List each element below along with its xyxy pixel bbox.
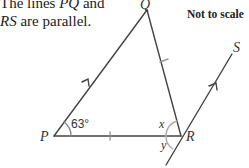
angle-arc-y [166,136,173,149]
point-label-r: R [185,129,195,144]
parallel-arrow-icon [82,79,89,86]
angle-label-y: y [160,138,167,152]
point-label-p: P [39,129,49,144]
point-label-q: Q [140,0,150,12]
angle-label-p: 63° [71,117,89,131]
point-label-s: S [233,40,240,55]
geometry-diagram: P Q R S 63° x y [0,0,249,168]
line-rs [166,54,232,165]
line-pq [54,10,147,136]
angle-arc-x [166,121,177,136]
angle-arc-p [64,122,71,136]
angle-label-x: x [158,117,165,131]
